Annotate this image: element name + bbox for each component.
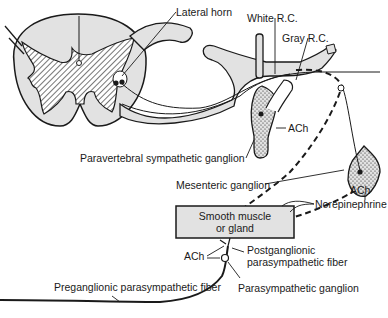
label-gray-rami-communicantes: Gray R.C.	[282, 32, 329, 44]
label-ach-mesenteric: ACh	[350, 184, 370, 196]
effector-label: Smooth muscle or gland	[176, 210, 294, 234]
label-white-rami-communicantes: White R.C.	[247, 12, 298, 24]
label-lateral-horn: Lateral horn	[176, 6, 232, 18]
label-preganglionic-fiber: Preganglionic parasympathetic fiber	[54, 281, 221, 293]
label-postganglionic-line1: Postganglionic	[247, 244, 347, 256]
label-mesenteric-ganglion: Mesenteric ganglion	[176, 179, 270, 191]
label-postganglionic-fiber: Postganglionic parasympathetic fiber	[247, 244, 347, 268]
effector-label-line2: or gland	[176, 222, 294, 234]
label-parasympathetic-ganglion: Parasympathetic ganglion	[238, 282, 359, 294]
label-norepinephrine: Norepinephrine	[315, 198, 387, 210]
effector-label-line1: Smooth muscle	[176, 210, 294, 222]
label-postganglionic-line2: parasympathetic fiber	[247, 256, 347, 268]
prevertebral-ganglion	[338, 85, 380, 196]
label-ach-paravertebral: ACh	[288, 122, 308, 134]
label-paravertebral-ganglion: Paravertebral sympathetic ganglion	[80, 152, 245, 164]
label-ach-parasympathetic: ACh	[184, 250, 204, 262]
paravertebral-ganglion	[251, 80, 292, 158]
spinal-nerve-roots	[120, 23, 380, 124]
